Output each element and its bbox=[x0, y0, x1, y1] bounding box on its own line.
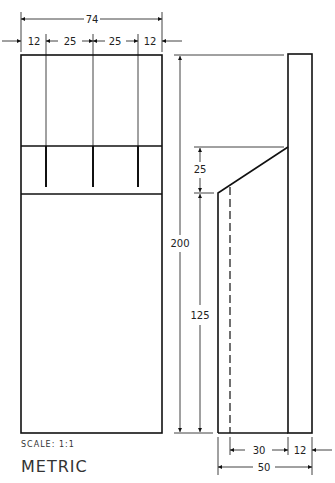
dim-seg-2: 25 bbox=[64, 36, 77, 47]
dim-lower-height: 125 bbox=[190, 310, 209, 321]
dim-seg-1: 12 bbox=[28, 36, 41, 47]
dim-seg-4: 12 bbox=[144, 36, 157, 47]
scale-label: SCALE: 1:1 bbox=[21, 440, 75, 449]
dim-overall-width: 74 bbox=[86, 14, 99, 25]
side-view bbox=[174, 54, 332, 475]
dim-inner-width: 30 bbox=[253, 445, 266, 456]
technical-drawing: 74 12 25 25 12 200 25 125 30 12 50 bbox=[0, 0, 335, 483]
units-label: METRIC bbox=[21, 457, 88, 476]
dim-overall-depth: 50 bbox=[258, 462, 271, 473]
dim-seg-3: 25 bbox=[109, 36, 122, 47]
dim-back-thickness: 12 bbox=[294, 445, 307, 456]
dim-slope-height: 25 bbox=[194, 164, 207, 175]
front-view bbox=[2, 12, 182, 433]
dim-overall-height: 200 bbox=[170, 238, 189, 249]
